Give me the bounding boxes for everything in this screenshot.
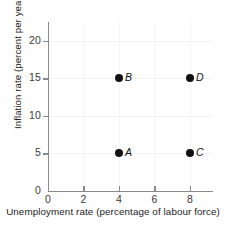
x-axis-tick-label: 8 xyxy=(180,193,200,205)
data-point-a xyxy=(115,149,123,157)
data-point-label-a: A xyxy=(125,146,132,158)
data-point-c xyxy=(186,149,194,157)
data-point-label-d: D xyxy=(196,71,204,83)
data-point-label-c: C xyxy=(196,146,204,158)
y-axis-title: Inflation rate (percent per year) xyxy=(12,0,23,137)
gridline-vertical xyxy=(119,22,120,191)
gridline-horizontal xyxy=(49,41,213,42)
x-axis-tick xyxy=(119,186,120,192)
y-axis-tick xyxy=(43,116,49,117)
gridline-vertical xyxy=(190,22,191,191)
y-axis-tick xyxy=(43,153,49,154)
gridline-vertical xyxy=(83,22,84,191)
gridline-horizontal xyxy=(49,116,213,117)
x-axis-tick xyxy=(154,186,155,192)
gridline-vertical xyxy=(154,22,155,191)
data-point-label-b: B xyxy=(125,71,132,83)
x-axis-tick xyxy=(190,186,191,192)
y-axis-tick xyxy=(43,41,49,42)
y-axis-tick-label: 5 xyxy=(15,146,41,158)
y-axis-tick xyxy=(43,78,49,79)
x-axis-tick-label: 4 xyxy=(109,193,129,205)
data-point-b xyxy=(115,74,123,82)
y-axis-line xyxy=(48,22,49,192)
data-point-d xyxy=(186,74,194,82)
x-axis-tick xyxy=(83,186,84,192)
x-axis-tick-label: 0 xyxy=(38,193,58,205)
x-axis-tick-label: 6 xyxy=(144,193,164,205)
x-axis-tick-label: 2 xyxy=(73,193,93,205)
scatter-chart: 05101520 02468 ABCD Inflation rate (perc… xyxy=(0,0,226,225)
x-axis-title: Unemployment rate (percentage of labour … xyxy=(0,206,226,217)
